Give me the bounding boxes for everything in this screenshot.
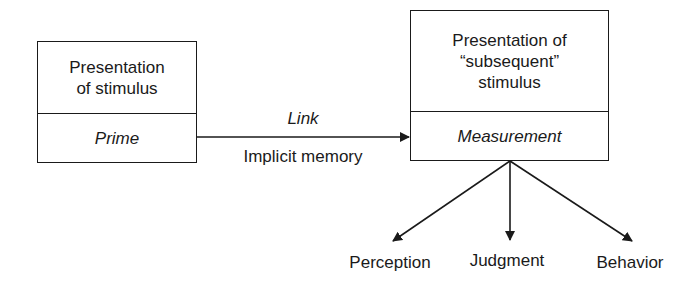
link-label: Link <box>253 109 353 129</box>
implicit-memory-label: Implicit memory <box>223 147 383 167</box>
arrow-to-behavior <box>510 161 632 241</box>
prime-label: Prime <box>38 114 196 162</box>
outcome-judgment: Judgment <box>447 251 567 271</box>
measurement-box-header-line-1: Presentation of <box>452 30 566 51</box>
prime-box-header-line-2: of stimulus <box>76 78 157 99</box>
measurement-box-header-line-2: “subsequent” <box>460 51 559 72</box>
prime-box-header: Presentation of stimulus <box>38 42 196 114</box>
measurement-label: Measurement <box>411 112 608 160</box>
arrow-to-perception <box>393 161 510 241</box>
outcome-perception: Perception <box>330 253 450 273</box>
measurement-box-header-line-3: stimulus <box>478 72 540 93</box>
prime-box: Presentation of stimulus Prime <box>37 41 197 163</box>
measurement-box-header: Presentation of “subsequent” stimulus <box>411 11 608 112</box>
measurement-box: Presentation of “subsequent” stimulus Me… <box>410 10 609 161</box>
prime-box-header-line-1: Presentation <box>69 57 164 78</box>
outcome-behavior: Behavior <box>570 253 690 273</box>
